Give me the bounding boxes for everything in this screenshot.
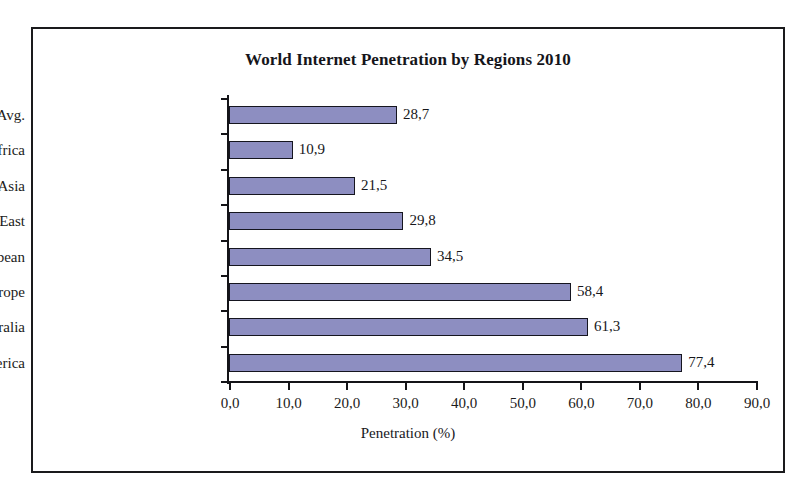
- bar[interactable]: [229, 248, 431, 266]
- bar-row: 61,3: [229, 310, 756, 345]
- x-axis-tick: [229, 381, 231, 390]
- bar-value-label: 29,8: [409, 211, 435, 230]
- y-axis-tick: [221, 346, 229, 348]
- bar-row: 21,5: [229, 169, 756, 204]
- y-axis-tick: [221, 133, 229, 135]
- x-axis-tick: [756, 381, 758, 390]
- category-label: World, Avg.: [0, 106, 25, 125]
- category-label: Europe: [0, 283, 25, 302]
- bar-value-label: 77,4: [688, 353, 714, 372]
- bar[interactable]: [229, 212, 403, 230]
- y-axis-tick: [221, 240, 229, 242]
- bar-value-label: 28,7: [403, 105, 429, 124]
- x-axis-tick: [580, 381, 582, 390]
- category-label: Oceania/Australia: [0, 318, 25, 337]
- bar-value-label: 34,5: [437, 247, 463, 266]
- bar[interactable]: [229, 354, 682, 372]
- bar[interactable]: [229, 106, 397, 124]
- bar-row: 58,4: [229, 275, 756, 310]
- y-axis-tick: [221, 204, 229, 206]
- category-label: Latin America/Caribbean: [0, 248, 25, 267]
- bar[interactable]: [229, 283, 571, 301]
- category-label: North America: [0, 354, 25, 373]
- bar[interactable]: [229, 141, 293, 159]
- x-axis-tick: [522, 381, 524, 390]
- x-axis-line: [227, 381, 758, 383]
- chart-frame: World Internet Penetration by Regions 20…: [31, 27, 785, 473]
- x-axis-tick: [463, 381, 465, 390]
- bar[interactable]: [229, 177, 355, 195]
- bar-value-label: 58,4: [577, 282, 603, 301]
- bar-value-label: 21,5: [361, 176, 387, 195]
- bar-row: 29,8: [229, 204, 756, 239]
- x-axis-title: Penetration (%): [33, 425, 783, 442]
- x-axis-tick: [405, 381, 407, 390]
- bar[interactable]: [229, 318, 588, 336]
- bar-value-label: 61,3: [594, 317, 620, 336]
- x-axis-tick-label: 90,0: [722, 395, 792, 412]
- bar-row: 10,9: [229, 133, 756, 168]
- y-axis-tick: [221, 169, 229, 171]
- x-axis-tick: [639, 381, 641, 390]
- y-axis-tick: [221, 381, 229, 383]
- x-axis-tick: [288, 381, 290, 390]
- x-axis-tick: [697, 381, 699, 390]
- x-axis-tick: [346, 381, 348, 390]
- bar-row: 28,7: [229, 98, 756, 133]
- category-label: Africa: [0, 141, 25, 160]
- bar-row: 77,4: [229, 346, 756, 381]
- y-axis-tick: [221, 98, 229, 100]
- plot-area: 28,710,921,529,834,558,461,377,4: [229, 98, 756, 381]
- category-label: Middle East: [0, 212, 25, 231]
- category-label: Asia: [0, 177, 25, 196]
- bar-value-label: 10,9: [299, 140, 325, 159]
- y-axis-tick: [221, 275, 229, 277]
- y-axis-tick: [221, 310, 229, 312]
- chart-title: World Internet Penetration by Regions 20…: [33, 50, 783, 70]
- bar-row: 34,5: [229, 240, 756, 275]
